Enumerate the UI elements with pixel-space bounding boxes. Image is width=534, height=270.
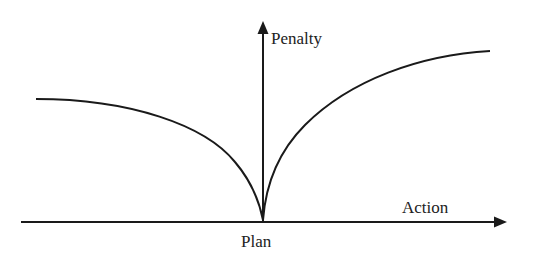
x-axis-arrowhead: [494, 217, 507, 228]
y-axis-arrowhead: [258, 21, 269, 34]
y-axis-label: Penalty: [271, 30, 322, 47]
x-axis-label: Action: [402, 199, 448, 216]
origin-label: Plan: [241, 233, 271, 250]
right-penalty-curve: [263, 51, 490, 220]
left-penalty-curve: [36, 99, 263, 220]
diagram-canvas: [0, 0, 534, 270]
